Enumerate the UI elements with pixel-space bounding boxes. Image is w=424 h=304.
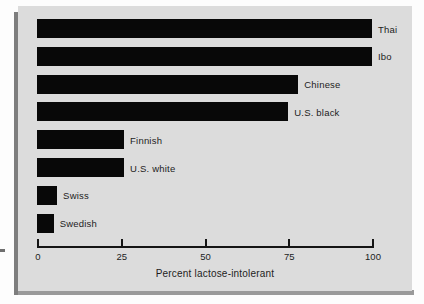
x-axis-tick <box>37 239 39 246</box>
bar <box>37 130 124 149</box>
x-axis-tick-label: 100 <box>365 251 381 262</box>
x-axis-tick <box>121 239 123 246</box>
bar <box>37 47 372 66</box>
x-axis-tick-label: 25 <box>116 251 127 262</box>
bar <box>37 75 298 94</box>
bar-label: Ibo <box>378 51 392 62</box>
scanned-page: ThaiIboChineseU.S. blackFinnishU.S. whit… <box>0 0 424 304</box>
x-axis-tick-label: 0 <box>35 251 40 262</box>
x-axis-tick <box>205 239 207 246</box>
bar-row: Chinese <box>18 75 412 94</box>
bar-label: Swedish <box>60 218 97 229</box>
bar-label: Thai <box>378 23 397 34</box>
bar-row: Swiss <box>18 186 412 205</box>
bar <box>37 158 124 177</box>
bar <box>37 19 372 38</box>
bar <box>37 186 57 205</box>
x-axis-title: Percent lactose-intolerant <box>18 268 412 279</box>
bar-row: Swedish <box>18 214 412 233</box>
bar-row: Finnish <box>18 130 412 149</box>
x-axis-line <box>37 246 374 248</box>
bar-row: U.S. black <box>18 102 412 121</box>
x-axis-tick-label: 50 <box>200 251 211 262</box>
x-axis-tick <box>372 239 374 246</box>
x-axis-tick-label: 75 <box>284 251 295 262</box>
bar-row: Ibo <box>18 47 412 66</box>
x-axis-tick <box>288 239 290 246</box>
chart-panel: ThaiIboChineseU.S. blackFinnishU.S. whit… <box>18 6 412 291</box>
bar-label: Chinese <box>304 79 340 90</box>
bar <box>37 102 288 121</box>
bar-row: Thai <box>18 19 412 38</box>
bar-label: U.S. black <box>294 106 339 117</box>
bar-label: Finnish <box>130 134 162 145</box>
scan-artifact-mark <box>0 249 5 252</box>
bar-row: U.S. white <box>18 158 412 177</box>
bar <box>37 214 54 233</box>
bar-label: Swiss <box>63 190 89 201</box>
bar-label: U.S. white <box>130 162 175 173</box>
